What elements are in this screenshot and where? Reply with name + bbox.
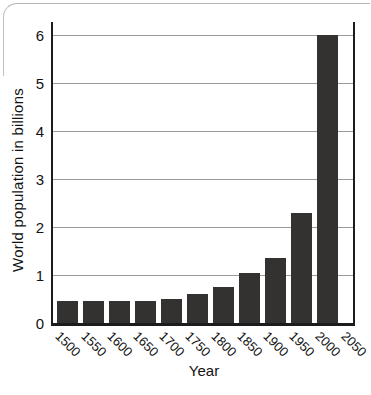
plot-area: [51, 22, 355, 326]
x-tick-label: 1700: [156, 328, 187, 359]
gridline: [53, 83, 353, 84]
x-tick-label: 1550: [78, 328, 109, 359]
bar-1650: [135, 301, 157, 323]
world-population-bar-chart: World population in billions 0123456 150…: [0, 0, 371, 395]
x-tick-label: 1850: [234, 328, 265, 359]
y-tick-label: 3: [10, 171, 44, 188]
x-tick-label: 2050: [338, 328, 369, 359]
bar-1600: [109, 301, 131, 323]
y-tick-label: 4: [10, 123, 44, 140]
x-axis-title: Year: [189, 362, 219, 379]
bar-1500: [57, 301, 79, 323]
gridline: [53, 179, 353, 180]
y-tick-label: 0: [10, 315, 44, 332]
y-tick-label: 5: [10, 75, 44, 92]
bar-1750: [187, 294, 209, 323]
y-tick-label: 6: [10, 27, 44, 44]
gridline: [53, 35, 353, 36]
x-tick-label: 1800: [208, 328, 239, 359]
bar-1850: [239, 273, 261, 323]
bar-1900: [265, 258, 287, 323]
x-tick-label: 1900: [260, 328, 291, 359]
bar-2000: [317, 35, 339, 323]
y-tick-label: 2: [10, 219, 44, 236]
bar-1800: [213, 287, 235, 323]
x-tick-label: 1600: [104, 328, 135, 359]
gridline: [53, 131, 353, 132]
bar-1950: [291, 213, 313, 323]
x-tick-label: 2000: [312, 328, 343, 359]
bar-1700: [161, 299, 183, 323]
x-tick-label: 1500: [52, 328, 83, 359]
x-tick-label: 1650: [130, 328, 161, 359]
x-tick-label: 1950: [286, 328, 317, 359]
x-tick-label: 1750: [182, 328, 213, 359]
y-tick-label: 1: [10, 267, 44, 284]
bar-1550: [83, 301, 105, 323]
